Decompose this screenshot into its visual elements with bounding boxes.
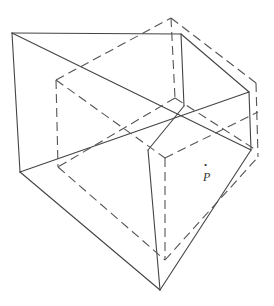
wireframe-diagram [0,0,274,306]
point-p-marker: • [204,160,207,170]
solid-figure [12,33,251,290]
point-p-label: P [203,170,210,185]
